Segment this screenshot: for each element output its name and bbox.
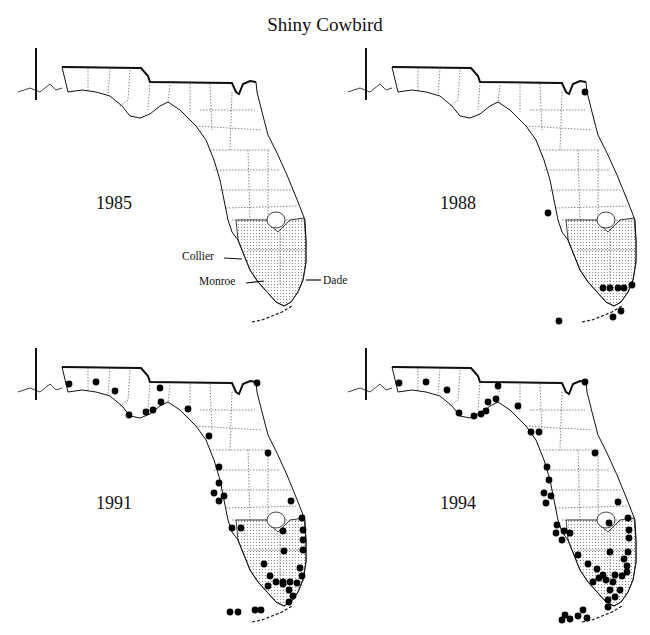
florida-map [0,40,320,335]
sighting-dot [287,579,294,586]
sighting-dot [261,561,268,568]
sighting-dot [629,282,636,289]
sighting-dot [582,89,589,96]
sighting-dot [610,314,617,321]
sighting-dot [300,547,307,554]
sighting-dot [612,572,619,579]
sighting-dot [216,464,223,471]
sighting-dot [528,429,535,436]
sighting-dot [536,429,543,436]
sighting-dot [541,490,548,497]
sighting-dot [625,515,632,522]
year-label: 1988 [440,193,476,214]
sighting-dot [619,573,626,580]
sighting-dot [567,616,574,623]
sighting-dot [612,594,619,601]
florida-map [330,40,650,335]
map-panel-1991: 1991 [0,340,320,635]
sighting-dot [575,613,582,620]
sighting-dot [607,549,614,556]
sighting-dot [548,493,555,500]
county-label-monroe: Monroe [199,275,235,287]
sighting-dot [495,383,502,390]
sighting-dot [229,525,236,532]
sighting-dot [580,607,587,614]
sighting-dot [299,573,306,580]
sighting-dot [559,537,566,544]
florida-map [330,340,650,635]
sighting-dot [561,528,568,535]
sighting-dot [294,580,301,587]
sighting-dot [93,379,100,386]
sighting-dot [300,527,307,534]
lake-okeechobee [597,212,615,228]
sighting-dot [485,399,492,406]
sighting-dot [625,549,632,556]
sighting-dot [297,565,304,572]
sighting-dot [290,593,297,600]
sighting-dot [235,609,242,616]
sighting-dot [252,607,259,614]
sighting-dot [211,490,218,497]
sighting-dot [567,530,574,537]
sighting-dot [617,587,624,594]
map-panel-1994: 1994 [330,340,650,635]
sighting-dot [544,464,551,471]
sighting-dot [126,412,133,419]
sighting-dot [545,210,552,217]
sighting-dot [605,597,612,604]
sighting-dot [607,587,614,594]
sighting-dot [444,387,451,394]
sighting-dot [185,406,192,413]
shaded-counties-region [236,518,306,606]
sighting-dot [546,477,553,484]
sighting-dot [238,525,245,532]
sighting-dot [621,285,628,292]
sighting-dot [575,552,582,559]
sighting-dot [624,563,631,570]
lake-okeechobee [597,512,615,528]
sighting-dot [600,285,607,292]
sighting-dot [265,583,272,590]
shaded-counties-region [236,218,306,306]
shaded-counties-region [566,218,636,306]
sighting-dot [423,379,430,386]
sighting-dot [596,575,603,582]
sighting-dot [286,599,293,606]
sighting-dot [594,566,601,573]
sighting-dot [603,577,610,584]
sighting-dot [280,581,287,588]
sighting-dot [456,410,463,417]
sighting-dot [471,413,478,420]
year-label: 1994 [440,493,476,514]
sighting-dot [150,407,157,414]
sighting-dot [112,388,119,395]
sighting-dot [582,379,589,386]
sighting-dot [553,530,560,537]
sighting-dot [258,607,265,614]
year-label: 1991 [96,493,132,514]
sighting-dot [267,573,274,580]
county-label-collier: Collier [182,250,214,262]
sighting-dot [590,579,597,586]
sighting-dot [621,556,628,563]
sighting-dot [515,403,522,410]
sighting-dot [254,380,261,387]
sighting-dot [606,520,613,527]
sighting-dot [483,408,490,415]
sighting-dot [299,515,306,522]
sighting-dot [280,528,287,535]
sighting-dot [206,433,213,440]
sighting-dot [610,579,617,586]
sighting-dot [543,500,550,507]
sighting-dot [626,527,633,534]
sighting-dot [585,561,592,568]
sighting-dot [216,498,223,505]
lake-okeechobee [267,512,285,528]
sighting-dot [618,308,625,315]
sighting-dot [143,409,150,416]
sighting-dot [615,499,622,506]
sighting-dot [216,480,223,487]
sighting-dot [157,385,164,392]
florida-map [0,340,320,635]
